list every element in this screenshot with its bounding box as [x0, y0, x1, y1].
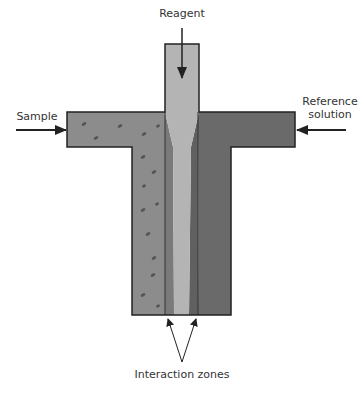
interaction-pointer-left-icon	[168, 319, 182, 362]
reference-label-line1: Reference	[298, 95, 362, 109]
reference-stream	[198, 112, 295, 315]
sample-label: Sample	[12, 110, 62, 124]
reference-label-line2: solution	[298, 108, 362, 122]
reagent-label: Reagent	[152, 7, 212, 21]
interaction-pointer-right-icon	[182, 319, 196, 362]
sample-stream	[67, 112, 165, 315]
t-sensor-diagram	[0, 0, 362, 394]
interaction-zones-label: Interaction zones	[122, 368, 242, 382]
